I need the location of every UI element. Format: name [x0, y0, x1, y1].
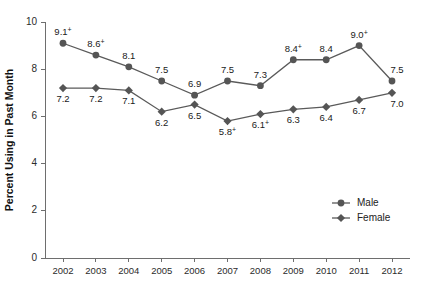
data-point-diamond-marker: [322, 103, 330, 111]
data-point-label: 6.2: [155, 117, 168, 128]
data-point-circle-marker: [323, 56, 330, 63]
data-point-label: 8.1: [122, 50, 135, 61]
y-tick-label: 6: [31, 110, 37, 121]
x-tick-label: 2006: [184, 265, 205, 276]
x-tick-label: 2008: [250, 265, 271, 276]
data-point-label: 5.8+: [219, 126, 236, 138]
data-point-label: 8.4: [320, 43, 333, 54]
data-point-label: 6.9: [188, 78, 201, 89]
x-tick-label: 2010: [316, 265, 337, 276]
data-point-label: 6.5: [188, 110, 201, 121]
significance-marker: +: [265, 119, 269, 126]
data-point-circle-marker: [290, 56, 297, 63]
legend-label-male: Male: [357, 197, 379, 208]
line-chart: 0246810 20022003200420052006200720082009…: [0, 0, 421, 289]
y-axis-title: Percent Using in Past Month: [3, 69, 15, 211]
y-tick-label: 0: [31, 252, 37, 263]
x-tick-label: 2003: [85, 265, 106, 276]
data-point-diamond-marker: [388, 89, 396, 97]
y-axis-title-text: Percent Using in Past Month: [3, 69, 15, 211]
x-tick-label: 2011: [349, 265, 369, 276]
data-point-label: 7.3: [254, 69, 267, 80]
data-point-label: 8.4+: [285, 42, 302, 54]
data-point-diamond-marker: [256, 110, 264, 118]
data-point-circle-marker: [389, 78, 396, 85]
x-tick-label: 2005: [151, 265, 172, 276]
x-tick-label: 2007: [217, 265, 238, 276]
data-point-label: 7.1: [122, 95, 135, 106]
data-point-diamond-marker: [223, 117, 231, 125]
data-point-diamond-marker: [92, 84, 100, 92]
x-axis-ticks: 2002200320042005200620072008200920102011…: [52, 258, 402, 276]
data-point-label: 7.5: [390, 64, 403, 75]
data-point-circle-marker: [60, 40, 67, 47]
y-tick-label: 8: [31, 63, 37, 74]
data-point-circle-marker: [158, 78, 165, 85]
series-line-female: [63, 88, 392, 121]
x-tick-label: 2012: [381, 265, 402, 276]
chart-container: 0246810 20022003200420052006200720082009…: [0, 0, 421, 289]
data-point-diamond-marker: [289, 105, 297, 113]
data-point-circle-marker: [191, 92, 198, 99]
data-point-label: 7.2: [89, 93, 102, 104]
data-point-circle-marker: [356, 42, 363, 49]
data-series: [59, 40, 396, 125]
data-point-circle-marker: [257, 82, 264, 89]
data-point-label: 8.6+: [87, 38, 104, 50]
x-tick-label: 2009: [283, 265, 304, 276]
x-tick-label: 2002: [52, 265, 73, 276]
data-point-label: 7.5: [155, 64, 168, 75]
y-tick-label: 4: [31, 157, 37, 168]
data-point-diamond-marker: [158, 108, 166, 116]
y-tick-label: 10: [26, 16, 38, 27]
data-point-label: 9.0+: [350, 28, 367, 40]
data-point-circle-marker: [125, 63, 132, 70]
legend-label-female: Female: [357, 212, 391, 223]
data-point-diamond-marker: [337, 214, 345, 222]
data-point-circle-marker: [93, 52, 100, 59]
significance-marker: +: [100, 38, 104, 45]
x-tick-label: 2004: [118, 265, 139, 276]
data-point-diamond-marker: [59, 84, 67, 92]
significance-marker: +: [232, 126, 236, 133]
data-point-label: 7.2: [56, 93, 69, 104]
data-point-circle-marker: [338, 200, 345, 207]
significance-marker: +: [298, 42, 302, 49]
data-point-diamond-marker: [191, 101, 199, 109]
data-point-label: 7.5: [221, 64, 234, 75]
data-point-label: 6.1+: [252, 119, 269, 131]
data-point-diamond-marker: [355, 96, 363, 104]
significance-marker: +: [68, 26, 72, 33]
significance-marker: +: [364, 28, 368, 35]
data-point-label: 6.7: [352, 105, 365, 116]
chart-legend: MaleFemale: [332, 197, 391, 223]
data-point-label: 7.0: [390, 98, 403, 109]
y-tick-label: 2: [31, 204, 37, 215]
data-point-label: 9.1+: [54, 26, 71, 38]
axes: [45, 22, 410, 258]
data-point-label: 6.3: [287, 114, 300, 125]
data-point-label: 6.4: [320, 112, 333, 123]
data-point-diamond-marker: [125, 86, 133, 94]
y-axis-ticks: 0246810: [26, 16, 45, 263]
data-point-circle-marker: [224, 78, 231, 85]
